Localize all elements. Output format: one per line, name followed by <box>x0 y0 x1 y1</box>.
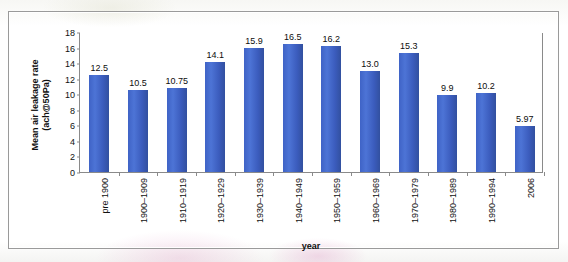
x-axis-tick-label: 1980–1989 <box>439 178 453 236</box>
bar-value-label: 9.9 <box>441 83 454 93</box>
bar-value-label: 10.75 <box>165 76 188 86</box>
x-axis-tick-label: 1950–1959 <box>323 178 337 236</box>
bar-slot: 10.2 <box>467 33 506 172</box>
bar[interactable] <box>167 88 187 172</box>
x-axis-tick-mark <box>389 172 390 176</box>
bar[interactable] <box>360 71 380 172</box>
x-axis-tick-label: 1970–1979 <box>401 178 415 236</box>
bar-value-label: 12.5 <box>91 63 109 73</box>
bar-value-label: 14.1 <box>207 50 225 60</box>
bar[interactable] <box>128 90 148 172</box>
bar-slot: 15.3 <box>389 33 428 172</box>
x-axis-tick-mark <box>235 172 236 176</box>
bar-slot: 16.2 <box>312 33 351 172</box>
bar-slot: 12.5 <box>80 33 119 172</box>
bar-slot: 14.1 <box>196 33 235 172</box>
bar-slot: 10.5 <box>119 33 158 172</box>
bar[interactable] <box>515 126 535 172</box>
y-axis-title-line1: Mean air leakage rate <box>30 59 41 150</box>
x-axis-tick-label: 1990–1994 <box>478 178 492 236</box>
x-axis-tick-label: 1960–1969 <box>362 178 376 236</box>
bar-slot: 9.9 <box>428 33 467 172</box>
x-axis-tick-mark <box>196 172 197 176</box>
bar-value-label: 5.97 <box>516 114 534 124</box>
bar-slot: 5.97 <box>505 33 544 172</box>
bar-slot: 13.0 <box>351 33 390 172</box>
bar[interactable] <box>89 75 109 172</box>
bar[interactable] <box>283 44 303 172</box>
plot-area: 181614121086420 12.510.510.7514.115.916.… <box>79 33 543 173</box>
bar[interactable] <box>399 53 419 172</box>
bar[interactable] <box>476 93 496 172</box>
bar[interactable] <box>205 62 225 172</box>
x-axis-tick-mark <box>544 172 545 176</box>
bar[interactable] <box>321 46 341 172</box>
x-axis-tick-label: 1940–1949 <box>285 178 299 236</box>
bar-value-label: 15.3 <box>400 41 418 51</box>
bar-value-label: 10.2 <box>477 81 495 91</box>
x-axis-tick-mark <box>312 172 313 176</box>
bar-value-label: 16.5 <box>284 32 302 42</box>
chart-outer-border: Mean air leakage rate (ach@50Pa) 1816141… <box>8 11 559 249</box>
bar-value-label: 10.5 <box>129 78 147 88</box>
x-axis-tick-label: 1910–1919 <box>169 178 183 236</box>
x-axis-tick-label: 1900–1909 <box>130 178 144 236</box>
x-axis-title: year <box>79 241 543 251</box>
x-axis-tick-label: 2006 <box>517 178 531 236</box>
bar-slot: 16.5 <box>273 33 312 172</box>
bar-series: 12.510.510.7514.115.916.516.213.015.39.9… <box>80 33 542 172</box>
bar[interactable] <box>437 95 457 172</box>
chart-plot-container: Mean air leakage rate (ach@50Pa) 1816141… <box>9 12 558 248</box>
bar-value-label: 15.9 <box>245 36 263 46</box>
bar-value-label: 16.2 <box>323 34 341 44</box>
x-axis-tick-mark <box>157 172 158 176</box>
bar-slot: 10.75 <box>157 33 196 172</box>
x-axis-tick-label: 1920–1929 <box>207 178 221 236</box>
y-axis-title: Mean air leakage rate (ach@50Pa) <box>21 30 61 180</box>
y-axis-title-line2: (ach@50Pa) <box>41 59 52 150</box>
x-axis-tick-mark <box>505 172 506 176</box>
x-axis-tick-mark <box>119 172 120 176</box>
x-axis-tick-mark <box>467 172 468 176</box>
x-axis-tick-label: pre 1900 <box>91 178 105 236</box>
x-axis-tick-label: 1930–1939 <box>246 178 260 236</box>
x-axis-tick-mark <box>428 172 429 176</box>
bar-value-label: 13.0 <box>361 59 379 69</box>
x-axis-tick-mark <box>351 172 352 176</box>
chart-figure: Mean air leakage rate (ach@50Pa) 1816141… <box>0 0 568 262</box>
bar[interactable] <box>244 48 264 172</box>
x-axis-tick-mark <box>273 172 274 176</box>
bar-slot: 15.9 <box>235 33 274 172</box>
y-axis-tick-mark <box>77 173 80 174</box>
